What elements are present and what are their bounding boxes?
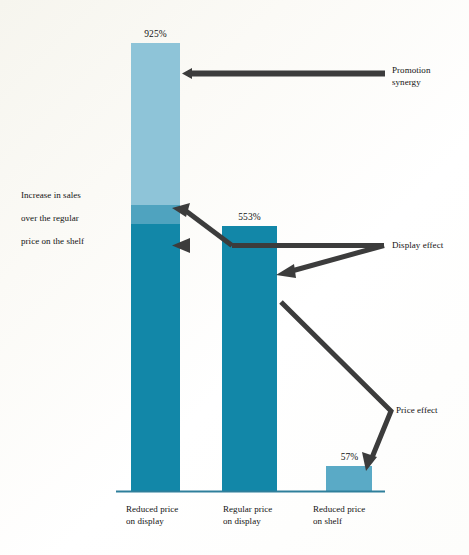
axis-description: Increase in sales over the regular price… xyxy=(21,178,126,259)
value-label-bar-2: 553% xyxy=(215,211,284,223)
value-label-bar-3: 57% xyxy=(315,451,384,463)
category-label-1: Reduced price on display xyxy=(126,504,206,527)
bar-2 xyxy=(222,226,277,491)
annotation-label-promotion-synergy: Promotion synergy xyxy=(392,65,468,88)
bar-1-segment-top xyxy=(131,43,180,205)
bar-1-segment-base xyxy=(131,224,180,491)
price-effect-arrow xyxy=(281,302,391,460)
category-label-2: Regular price on display xyxy=(223,504,303,527)
promotion-synergy-arrow xyxy=(182,68,385,79)
bar-3 xyxy=(326,466,372,491)
axis-description-line-2: over the regular xyxy=(21,213,126,225)
axis-description-line-1: Increase in sales xyxy=(21,190,126,202)
annotation-label-display-effect: Display effect xyxy=(392,240,468,252)
value-label-bar-1: 925% xyxy=(121,28,190,40)
axis-description-line-3: price on the shelf xyxy=(21,236,126,248)
category-label-3: Reduced price on shelf xyxy=(313,504,393,527)
chart-canvas: 925% 553% 57% Increase in sales over the… xyxy=(0,0,469,555)
annotation-label-price-effect: Price effect xyxy=(396,405,466,417)
